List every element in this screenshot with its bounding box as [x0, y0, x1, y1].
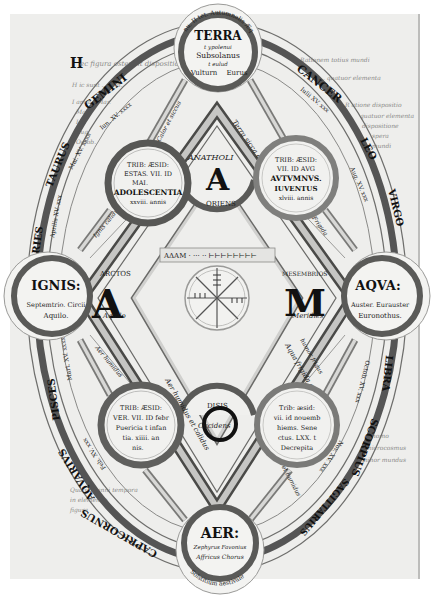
- svg-text:Vulturn: Vulturn: [190, 69, 218, 77]
- svg-text:Mart. XV. xxxx: Mart. XV. xxxx: [58, 336, 73, 381]
- svg-text:vii. id nouemb: vii. id nouemb: [273, 414, 321, 422]
- svg-text:t eulud: t eulud: [208, 61, 228, 67]
- svg-text:nis.: nis.: [132, 444, 144, 452]
- svg-text:xxviii. annis: xxviii. annis: [130, 198, 166, 205]
- svg-text:IUVENTUS: IUVENTUS: [275, 184, 318, 193]
- svg-text:VER. VII. ID febr: VER. VII. ID febr: [112, 414, 170, 422]
- zodiac-libra: LIBRA: [380, 355, 395, 392]
- terra-title: TERRA: [194, 29, 242, 43]
- svg-text:xlviii. annis: xlviii. annis: [279, 194, 314, 201]
- ignis-title: IGNIS:: [31, 278, 80, 293]
- zodiac-pisces: PISCES: [45, 378, 62, 421]
- anatholi-label: ANATHOLI: [187, 153, 234, 162]
- svg-text:t ypolenui: t ypolenui: [204, 44, 232, 51]
- svg-text:ESTAS. VII. ID: ESTAS. VII. ID: [124, 170, 172, 178]
- notation-strip: ΑΔΑΜ · ··· ·· ⊢⊢⊢⊢⊢⊢⊢⊢: [160, 248, 275, 262]
- svg-text:Octob. XV. xxx: Octob. XV. xxx: [354, 360, 371, 404]
- manuscript-page: H ec figura ostendit dispositionem H ic …: [0, 0, 434, 600]
- svg-text:Decrepita: Decrepita: [281, 444, 314, 452]
- element-aqua: AQVA: Auster. Eurauster Euronothus.: [342, 252, 430, 340]
- arctos-label: ARCTOS: [99, 270, 131, 278]
- element-ignis: IGNIS: Septemtrio. Circii Aquilo.: [4, 252, 92, 340]
- aquilo-label: Aquilo: [102, 312, 126, 320]
- zodiac-leo: LEO: [358, 136, 379, 162]
- svg-text:hiems. Sene: hiems. Sene: [277, 424, 317, 432]
- svg-text:ctus. LXX. t: ctus. LXX. t: [278, 434, 317, 442]
- element-terra: nu. II tet. Autumnalis Æquinoctium TERRA…: [0, 0, 262, 92]
- aqua-title: AQVA:: [354, 278, 400, 293]
- meridies-label: Meridies: [291, 312, 324, 320]
- svg-text:TRIB: ÆSID:: TRIB: ÆSID:: [120, 404, 162, 412]
- season-aestas: TRIB: ÆSID: ESTAS. VII. ID MAI. ADOLESCE…: [108, 143, 188, 223]
- svg-text:Zephyrus Favonius: Zephyrus Favonius: [193, 544, 247, 551]
- notation-text: ΑΔΑΜ · ··· ·· ⊢⊢⊢⊢⊢⊢⊢⊢: [163, 252, 257, 260]
- svg-text:MAI.: MAI.: [132, 179, 148, 187]
- element-aer: AER: Zephyrus Favonius Affricus Chorus S…: [176, 506, 264, 594]
- svg-text:tia. xiiii. an: tia. xiiii. an: [123, 434, 160, 442]
- svg-text:Affricus Chorus: Affricus Chorus: [195, 553, 243, 561]
- anatholi-letter: A: [205, 162, 230, 197]
- central-wheel: [185, 266, 249, 330]
- svg-text:Eurus: Eurus: [226, 69, 247, 77]
- svg-text:Subsolanus: Subsolanus: [196, 51, 240, 60]
- svg-text:AVTVMNVS.: AVTVMNVS.: [269, 174, 321, 183]
- svg-text:Aquilo.: Aquilo.: [43, 312, 69, 320]
- cosmological-diagram: H ec figura ostendit dispositionem H ic …: [0, 0, 434, 600]
- svg-text:VII. ID AVG: VII. ID AVG: [276, 165, 315, 173]
- svg-text:spera: spera: [372, 132, 389, 140]
- svg-text:Trib: æsid:: Trib: æsid:: [279, 404, 315, 412]
- season-autumnus: TRIB: ÆSID: VII. ID AVG AVTVMNVS. IUVENT…: [256, 138, 336, 218]
- svg-text:Puericia t infan: Puericia t infan: [116, 424, 167, 432]
- svg-text:quatuor elementa: quatuor elementa: [360, 112, 414, 120]
- svg-text:Septemtrio. Circii: Septemtrio. Circii: [27, 301, 86, 309]
- mesembrios-label: MESEMBRIOS: [282, 270, 327, 277]
- svg-text:Aug. XV. xxx: Aug. XV. xxx: [348, 165, 371, 204]
- aer-title: AER:: [200, 525, 239, 541]
- svg-text:Auster. Eurauster: Auster. Eurauster: [350, 301, 410, 309]
- season-ver: TRIB: ÆSID: VER. VII. ID febr Puericia t…: [101, 385, 181, 465]
- svg-text:TRIB: ÆSID:: TRIB: ÆSID:: [127, 161, 169, 169]
- zodiac-sagittarius: SAGITTARIUS: [298, 477, 351, 538]
- svg-text:TRIB: ÆSID:: TRIB: ÆSID:: [275, 156, 317, 164]
- svg-text:ADOLESCENTIA: ADOLESCENTIA: [113, 188, 183, 197]
- occidens-label: Occidens: [198, 422, 231, 430]
- oriens-label: ORIENS: [206, 200, 236, 208]
- svg-text:Euronothus.: Euronothus.: [358, 312, 402, 320]
- season-hiems: Trib: æsid: vii. id nouemb hiems. Sene c…: [257, 385, 337, 465]
